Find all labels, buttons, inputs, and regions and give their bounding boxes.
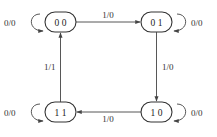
state-diagram: 0 0 0/0 0 1 0/0 1 0 0/0 1 1 0/0 1/0 1/0 … [0, 0, 217, 137]
self-loop-00-arrow [31, 14, 43, 31]
state-10: 1 0 0/0 [141, 102, 203, 122]
transition-01-10-label: 1/0 [162, 62, 174, 72]
transition-00-01: 1/0 [76, 10, 140, 22]
transition-11-00-label: 1/1 [44, 62, 56, 72]
transition-00-01-label: 1/0 [102, 10, 114, 20]
transition-11-00: 1/1 [44, 33, 61, 102]
state-10-label: 1 0 [151, 108, 163, 118]
state-01: 0 1 0/0 [141, 12, 203, 32]
self-loop-00-label: 0/0 [4, 18, 16, 28]
state-01-label: 0 1 [151, 18, 163, 28]
self-loop-11-arrow [31, 104, 43, 121]
state-00-label: 0 0 [55, 18, 67, 28]
state-11-label: 1 1 [55, 108, 67, 118]
state-00: 0 0 0/0 [4, 12, 76, 32]
self-loop-01-arrow [174, 14, 186, 31]
transition-01-10: 1/0 [157, 32, 175, 101]
self-loop-10-arrow [174, 104, 186, 121]
self-loop-01-label: 0/0 [191, 18, 203, 28]
state-11: 1 1 0/0 [4, 102, 76, 122]
transition-10-11-label: 1/0 [102, 114, 114, 124]
self-loop-11-label: 0/0 [4, 108, 16, 118]
self-loop-10-label: 0/0 [191, 108, 203, 118]
transition-10-11: 1/0 [77, 112, 141, 124]
